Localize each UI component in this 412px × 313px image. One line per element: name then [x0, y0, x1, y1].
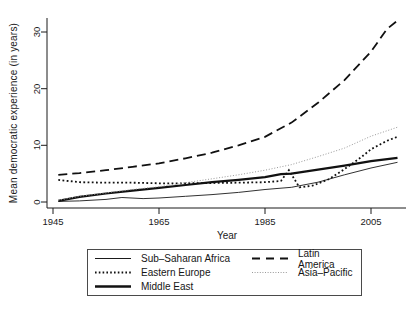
legend-line-sample — [94, 281, 132, 292]
legend-label: Sub–Saharan Africa — [141, 253, 230, 264]
series-line-middle-east — [58, 158, 397, 201]
series-line-latin-america — [58, 21, 397, 175]
plot-svg — [0, 0, 412, 245]
legend-label: Asia–Pacific — [298, 267, 352, 278]
legend-line-sample — [251, 253, 289, 264]
x-tick-label-2005: 2005 — [360, 216, 381, 227]
legend-entry-sub-saharan-africa: Sub–Saharan Africa — [94, 252, 251, 265]
legend-entry-latin-america: Latin America — [251, 252, 357, 265]
legend-entry-eastern-europe: Eastern Europe — [94, 266, 251, 279]
y-tick-label-10: 10 — [31, 140, 42, 151]
legend-box: Sub–Saharan Africa Latin America Eastern… — [87, 249, 362, 296]
legend-line-sample — [94, 253, 132, 264]
y-tick-label-20: 20 — [31, 84, 42, 95]
series-line-asia-pacific — [58, 127, 397, 200]
legend-line-sample — [251, 267, 289, 278]
y-tick-label-0: 0 — [31, 199, 42, 204]
x-tick-label-1985: 1985 — [254, 216, 275, 227]
democratic-experience-chart: 0 10 20 30 1945 1965 1985 2005 Mean demo… — [0, 0, 412, 313]
legend-label: Middle East — [141, 281, 193, 292]
legend-line-sample — [94, 267, 132, 278]
y-tick-label-30: 30 — [31, 27, 42, 38]
y-axis-title: Mean democratic experience (in years) — [8, 23, 19, 203]
legend-label: Eastern Europe — [141, 267, 211, 278]
legend-entry-middle-east: Middle East — [94, 280, 251, 293]
x-tick-label-1945: 1945 — [42, 216, 63, 227]
legend-entry-asia-pacific: Asia–Pacific — [251, 266, 357, 279]
x-tick-label-1965: 1965 — [148, 216, 169, 227]
x-axis-title: Year — [217, 230, 237, 241]
